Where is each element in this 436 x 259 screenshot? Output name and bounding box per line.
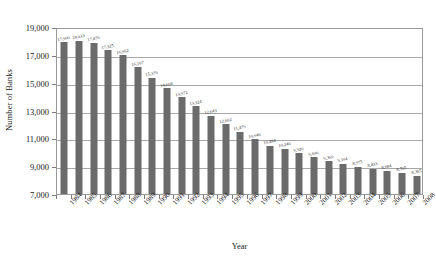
bar bbox=[61, 42, 68, 194]
y-axis-tick-label: 11,000 bbox=[26, 134, 49, 144]
bar-slot: 8,305 bbox=[409, 29, 424, 194]
bar-value-label: 8,833 bbox=[367, 161, 378, 168]
bar-value-label: 13,324 bbox=[189, 98, 202, 105]
bar-slot: 12,643 bbox=[204, 29, 219, 194]
bar-value-label: 9,369 bbox=[323, 154, 334, 161]
bar bbox=[193, 106, 200, 194]
bar-value-label: 11,479 bbox=[233, 124, 246, 131]
plot-area: 17,90018,03317,87617,32516,96216,10715,3… bbox=[56, 28, 423, 195]
bar-value-label: 8,305 bbox=[411, 168, 422, 175]
bar-value-label: 10,484 bbox=[263, 138, 276, 145]
bar-value-label: 14,608 bbox=[160, 80, 173, 87]
x-axis-tick-mark bbox=[56, 195, 57, 199]
y-axis-tick-label: 13,000 bbox=[26, 107, 49, 117]
bar bbox=[134, 67, 141, 194]
y-axis-tick-label: 7,000 bbox=[30, 190, 49, 200]
bar-slot: 17,900 bbox=[57, 29, 72, 194]
bar-slot: 10,946 bbox=[248, 29, 263, 194]
bar-value-label: 13,972 bbox=[175, 89, 188, 96]
bar bbox=[164, 88, 171, 194]
bar-value-label: 9,194 bbox=[337, 156, 348, 163]
bar-series: 17,90018,03317,87617,32516,96216,10715,3… bbox=[57, 29, 422, 194]
bar-value-label: 18,033 bbox=[72, 33, 85, 40]
bar-slot: 10,484 bbox=[263, 29, 278, 194]
bar-slot: 15,370 bbox=[145, 29, 160, 194]
bar bbox=[340, 164, 347, 195]
bar-slot: 16,962 bbox=[116, 29, 131, 194]
bar bbox=[120, 55, 127, 194]
bar bbox=[222, 124, 229, 194]
bar-value-label: 9,630 bbox=[308, 150, 319, 157]
bar bbox=[325, 161, 332, 194]
bar-value-label: 16,962 bbox=[116, 48, 129, 55]
bar bbox=[310, 157, 317, 194]
bar-value-label: 10,946 bbox=[248, 131, 261, 138]
bar-value-label: 12,002 bbox=[219, 117, 232, 124]
bar bbox=[252, 139, 259, 194]
bar bbox=[90, 43, 97, 194]
bar-slot: 12,002 bbox=[218, 29, 233, 194]
y-axis-tick-label: 19,000 bbox=[26, 23, 49, 33]
bar-value-label: 10,240 bbox=[277, 141, 290, 148]
bar-value-label: 17,876 bbox=[87, 35, 100, 42]
bar-slot: 13,972 bbox=[174, 29, 189, 194]
bar bbox=[354, 167, 361, 195]
bar-value-label: 8,975 bbox=[352, 159, 363, 166]
bar-value-label: 17,900 bbox=[57, 35, 70, 42]
bar-slot: 16,107 bbox=[130, 29, 145, 194]
bar-slot: 18,033 bbox=[72, 29, 87, 194]
bar bbox=[76, 41, 83, 195]
bar-value-label: 8,535 bbox=[396, 165, 407, 172]
y-axis-tick-label: 15,000 bbox=[26, 79, 49, 89]
bar-slot: 8,975 bbox=[351, 29, 366, 194]
bar bbox=[237, 132, 244, 194]
bar-value-label: 16,107 bbox=[131, 60, 144, 67]
bar bbox=[149, 78, 156, 195]
bar bbox=[281, 149, 288, 194]
bar-value-label: 12,643 bbox=[204, 108, 217, 115]
bar-slot: 9,920 bbox=[292, 29, 307, 194]
bar-slot: 17,876 bbox=[86, 29, 101, 194]
x-axis-title: Year bbox=[56, 241, 423, 251]
bar-slot: 9,194 bbox=[336, 29, 351, 194]
bar-slot: 9,369 bbox=[321, 29, 336, 194]
bar-slot: 8,684 bbox=[380, 29, 395, 194]
bar-slot: 9,630 bbox=[307, 29, 322, 194]
bar-value-label: 17,325 bbox=[101, 43, 114, 50]
bar-slot: 8,535 bbox=[395, 29, 410, 194]
bar bbox=[266, 146, 273, 195]
bar-slot: 14,608 bbox=[160, 29, 175, 194]
bar-slot: 11,479 bbox=[233, 29, 248, 194]
bar bbox=[296, 153, 303, 194]
bar-slot: 17,325 bbox=[101, 29, 116, 194]
bar bbox=[105, 50, 112, 194]
y-axis-tick-label: 9,000 bbox=[30, 162, 49, 172]
bar bbox=[208, 116, 215, 195]
bar bbox=[369, 169, 376, 195]
bar bbox=[178, 97, 185, 194]
y-axis-tick-label: 17,000 bbox=[26, 51, 49, 61]
bar-slot: 8,833 bbox=[365, 29, 380, 194]
bar-value-label: 8,684 bbox=[381, 163, 392, 170]
y-axis-ticks: 7,0009,00011,00013,00015,00017,00019,000 bbox=[0, 0, 56, 259]
bar-slot: 13,324 bbox=[189, 29, 204, 194]
bar-value-label: 9,920 bbox=[293, 146, 304, 153]
bar-value-label: 15,370 bbox=[145, 70, 158, 77]
bar-slot: 10,240 bbox=[277, 29, 292, 194]
